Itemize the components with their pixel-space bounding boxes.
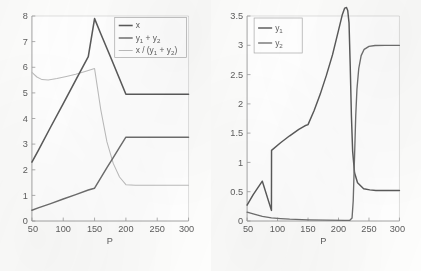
right-y-ticklabels: 0 0.5 1 1.5 2 2.5 3 3.5 xyxy=(230,11,243,226)
right-legend-y1-sub: 1 xyxy=(279,27,283,34)
left-legend-ratio-tail: + y xyxy=(157,45,172,55)
left-ytick-2: 2 xyxy=(23,165,28,175)
left-legend-sum-tail: + y xyxy=(143,33,158,43)
left-ytick-7: 7 xyxy=(23,37,28,47)
right-xtick-250: 250 xyxy=(361,224,376,234)
left-ytick-1: 1 xyxy=(23,191,28,201)
left-legend[interactable]: x y1 + y2 x / (y1 + y2) xyxy=(115,18,187,58)
left-legend-sum-sub2: 2 xyxy=(157,37,161,44)
right-x-ticklabels: 50 100 150 200 250 300 xyxy=(242,224,404,234)
right-ytick-0_5: 0.5 xyxy=(230,187,243,197)
left-xtick-250: 250 xyxy=(150,224,165,234)
left-xtick-50: 50 xyxy=(28,224,38,234)
right-ytick-1: 1 xyxy=(237,158,242,168)
left-y-ticklabels: 0 1 2 3 4 5 6 7 8 xyxy=(23,11,28,226)
left-ytick-8: 8 xyxy=(23,11,28,21)
right-xtick-300: 300 xyxy=(389,224,404,234)
left-ytick-4: 4 xyxy=(23,114,28,124)
left-x-ticklabels: 50 100 150 200 250 300 xyxy=(28,224,194,234)
right-ytick-2: 2 xyxy=(237,99,242,109)
left-xtick-200: 200 xyxy=(118,224,133,234)
right-chart-panel: 0 0.5 1 1.5 2 2.5 3 3.5 50 100 150 xyxy=(211,0,421,271)
left-legend-ratio-close: ) xyxy=(174,45,177,55)
right-xaxis-label: P xyxy=(320,236,326,246)
right-xtick-150: 150 xyxy=(300,224,315,234)
left-ytick-3: 3 xyxy=(23,139,28,149)
left-xaxis-label: P xyxy=(107,236,113,246)
right-xtick-50: 50 xyxy=(242,224,252,234)
right-ytick-3: 3 xyxy=(237,41,242,51)
left-chart-svg: 0 1 2 3 4 5 6 7 8 50 100 xyxy=(0,0,211,271)
right-chart-svg: 0 0.5 1 1.5 2 2.5 3 3.5 50 100 150 xyxy=(211,0,421,271)
right-ytick-1_5: 1.5 xyxy=(230,128,243,138)
figure-container: 0 1 2 3 4 5 6 7 8 50 100 xyxy=(0,0,421,271)
right-legend[interactable]: y1 y2 xyxy=(254,18,302,53)
left-chart-panel: 0 1 2 3 4 5 6 7 8 50 100 xyxy=(0,0,211,271)
left-xtick-150: 150 xyxy=(87,224,102,234)
right-ytick-3_5: 3.5 xyxy=(230,11,243,21)
left-xtick-300: 300 xyxy=(179,224,194,234)
right-xtick-200: 200 xyxy=(330,224,345,234)
left-ytick-5: 5 xyxy=(23,88,28,98)
left-ytick-6: 6 xyxy=(23,62,28,72)
left-legend-ratio-head: x / (y xyxy=(136,45,155,55)
right-ytick-2_5: 2.5 xyxy=(230,70,243,80)
right-legend-y2-sub: 2 xyxy=(279,42,283,49)
left-xtick-100: 100 xyxy=(56,224,71,234)
right-xtick-100: 100 xyxy=(269,224,284,234)
